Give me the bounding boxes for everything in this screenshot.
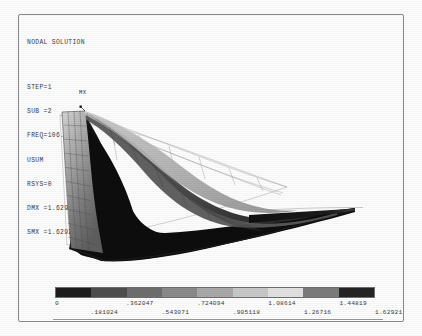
colorbar-tick-bottom-2: .905118: [233, 309, 260, 316]
colorbar-tick-bottom-1: .543071: [162, 309, 189, 316]
legend-divider-rule: [53, 319, 383, 320]
colorbar-tick-bottom-0: .181024: [91, 309, 118, 316]
colorbar-tick-top-2: .724094: [197, 300, 224, 307]
max-marker-label: MX: [79, 89, 86, 96]
deformed-shape-svg: [19, 15, 405, 277]
colorbar-segment-5: [233, 288, 268, 297]
contour-plot-area[interactable]: MX: [19, 15, 405, 277]
contour-legend: 0.362047.7240941.086141.44819 .181024.54…: [55, 287, 375, 333]
colorbar-tick-top-0: 0: [55, 300, 59, 307]
colorbar-segment-8: [339, 288, 374, 297]
graphics-window-frame: NODAL SOLUTION STEP=1 SUB =2 FREQ=106.54…: [18, 14, 404, 322]
colorbar-segment-3: [162, 288, 197, 297]
colorbar-segment-7: [303, 288, 338, 297]
colorbar-segment-0: [56, 288, 91, 297]
colorbar-tick-top-4: 1.44819: [339, 300, 366, 307]
colorbar-tick-top-3: 1.08614: [268, 300, 295, 307]
colorbar-tick-bottom-3: 1.26716: [304, 309, 331, 316]
colorbar-tick-bottom-4: 1.62921: [375, 309, 402, 316]
max-marker: [80, 106, 86, 112]
colorbar-segment-4: [197, 288, 232, 297]
ansys-postprocessor-screenshot: NODAL SOLUTION STEP=1 SUB =2 FREQ=106.54…: [0, 0, 422, 336]
colorbar[interactable]: [55, 287, 375, 298]
colorbar-segment-6: [268, 288, 303, 297]
colorbar-segment-2: [127, 288, 162, 297]
colorbar-tick-top-1: .362047: [126, 300, 153, 307]
colorbar-segment-1: [91, 288, 126, 297]
